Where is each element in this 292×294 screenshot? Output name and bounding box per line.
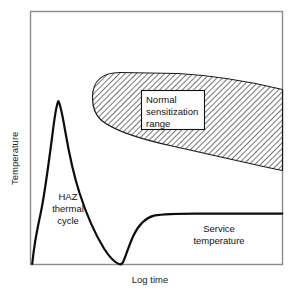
figure-container: Temperature Log time HAZ thermal cycle S… [0,0,292,294]
sensitization-label-line-3: range [146,118,170,129]
x-axis-title: Log time [132,274,168,285]
service-label-line-2: temperature [193,235,244,246]
y-axis-title: Temperature [9,132,20,185]
chart-canvas: Temperature Log time HAZ thermal cycle S… [0,0,292,294]
sensitization-label-line-1: Normal [146,94,177,105]
haz-label-line-2: thermal [52,203,84,214]
haz-label-line-3: cycle [57,215,79,226]
sensitization-label-line-2: sensitization [146,106,198,117]
service-label-line-1: Service [203,223,235,234]
haz-label-line-1: HAZ [59,191,78,202]
